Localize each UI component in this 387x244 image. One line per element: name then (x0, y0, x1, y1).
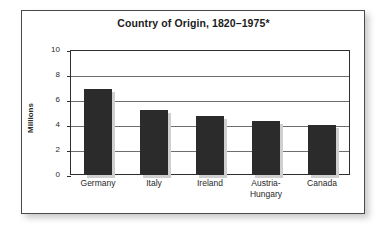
x-tick-label-line: Ireland (182, 178, 238, 189)
bar-slot (196, 50, 224, 175)
x-axis-labels: GermanyItalyIrelandAustria-HungaryCanada (70, 178, 350, 212)
y-tick-label: 6 (30, 95, 60, 104)
x-tick-label-line: Austria- (238, 178, 294, 189)
y-tick-label: 0 (30, 170, 60, 179)
x-tick-label: Germany (70, 178, 126, 189)
x-tick-label: Italy (126, 178, 182, 189)
bar[interactable] (84, 89, 112, 175)
y-tick-label: 4 (30, 120, 60, 129)
bar[interactable] (140, 110, 168, 175)
bar-slot (140, 50, 168, 175)
chart-title: Country of Origin, 1820–1975* (0, 17, 387, 29)
x-tick-label: Austria-Hungary (238, 178, 294, 200)
x-tick-label-line: Hungary (238, 189, 294, 200)
x-tick-label-line: Germany (70, 178, 126, 189)
bar-slot (84, 50, 112, 175)
x-tick-label: Canada (294, 178, 350, 189)
y-tick-label: 2 (30, 145, 60, 154)
bar-slot (252, 50, 280, 175)
y-tick-mark (67, 176, 71, 177)
bar[interactable] (308, 125, 336, 175)
x-tick-label: Ireland (182, 178, 238, 189)
figure-container: Country of Origin, 1820–1975* Millions 0… (0, 0, 387, 244)
bar[interactable] (196, 116, 224, 175)
x-tick-label-line: Italy (126, 178, 182, 189)
bar-series (70, 50, 350, 175)
y-tick-label: 8 (30, 70, 60, 79)
x-tick-label-line: Canada (294, 178, 350, 189)
bar-slot (308, 50, 336, 175)
bar[interactable] (252, 121, 280, 175)
y-tick-label: 10 (30, 45, 60, 54)
